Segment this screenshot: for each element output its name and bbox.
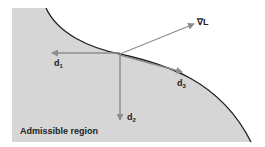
d1-label: d1 [54, 58, 63, 69]
diagram-canvas [0, 0, 265, 147]
gradient-label: ∇L [197, 17, 209, 27]
d1-label-sub: 1 [60, 63, 63, 69]
diagram: ∇L d1 d2 d3 Admissible region [0, 0, 265, 147]
d3-label-sub: 3 [183, 83, 186, 89]
gradient-label-text: ∇L [197, 17, 209, 27]
d2-label: d2 [127, 112, 136, 123]
d2-label-sub: 2 [133, 117, 136, 123]
d3-label: d3 [177, 78, 186, 89]
gradient-arrow [120, 24, 194, 54]
region-label: Admissible region [20, 126, 98, 136]
